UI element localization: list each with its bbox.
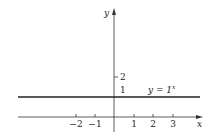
x-tick-label: 2 xyxy=(150,119,156,129)
x-tick-label: 1 xyxy=(131,119,137,129)
x-ticks xyxy=(76,114,173,117)
curve-label: y = 1x xyxy=(147,83,176,95)
y-axis-label: y xyxy=(103,8,110,18)
plot: −2 −1 1 2 3 2 1 x y y = 1x xyxy=(0,0,214,138)
graph-figure: −2 −1 1 2 3 2 1 x y y = 1x xyxy=(0,0,214,138)
y-axis-arrow-icon xyxy=(112,8,116,15)
y-tick-label: 2 xyxy=(120,72,126,82)
x-tick-label: −2 xyxy=(69,119,82,129)
x-tick-label: 3 xyxy=(170,119,176,129)
x-axis-label: x xyxy=(197,119,202,129)
x-tick-label: −1 xyxy=(88,119,101,129)
y-tick-label: 1 xyxy=(120,85,126,95)
